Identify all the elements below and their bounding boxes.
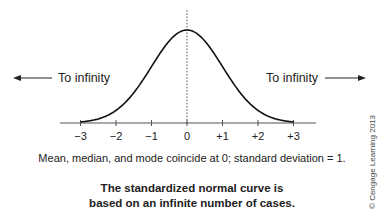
- left-arrow-icon: [13, 75, 21, 81]
- x-tick-label-6: +3: [287, 130, 300, 142]
- right-infinity-annotation: To infinity: [266, 71, 366, 85]
- normal-curve: [81, 30, 294, 122]
- right-arrow-icon: [358, 75, 366, 81]
- x-tick-label-4: +1: [216, 130, 229, 142]
- note-line-1: The standardized normal curve is: [0, 181, 384, 196]
- x-tick-label-1: −2: [110, 130, 123, 142]
- right-infinity-label: To infinity: [266, 71, 319, 85]
- chart-caption: Mean, median, and mode coincide at 0; st…: [0, 152, 384, 164]
- left-infinity-annotation: To infinity: [13, 71, 111, 85]
- note-line-2: based on an infinite number of cases.: [0, 196, 384, 211]
- x-tick-label-5: +2: [252, 130, 265, 142]
- normal-curve-chart: −3−2−10+1+2+3 To infinity To infinity: [0, 0, 384, 150]
- copyright-notice: © Cengage Learning 2013: [368, 115, 377, 209]
- x-tick-label-2: −1: [145, 130, 158, 142]
- left-infinity-label: To infinity: [58, 71, 111, 85]
- x-tick-label-0: −3: [74, 130, 87, 142]
- x-tick-label-3: 0: [184, 130, 190, 142]
